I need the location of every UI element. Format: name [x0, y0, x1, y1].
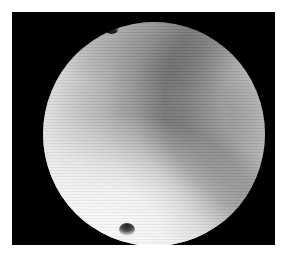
figure-root — [0, 0, 283, 256]
limb-notch-south — [119, 223, 135, 236]
figure-caption — [12, 246, 275, 255]
astronomical-image-frame — [12, 12, 275, 245]
limb-notch-north — [104, 22, 119, 34]
planetary-disk — [12, 12, 275, 245]
disk-edge-falloff — [43, 22, 265, 245]
